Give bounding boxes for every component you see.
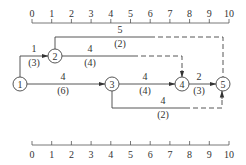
top-axis-tick-label: 2 bbox=[69, 8, 74, 19]
edge-4-5-float: (3) bbox=[193, 85, 205, 97]
edge-3-5-float: (2) bbox=[157, 109, 169, 121]
edge-3-5: 4 (2) bbox=[112, 91, 222, 121]
edge-1-2: 1 (3) bbox=[20, 43, 48, 77]
edge-3-4-duration: 4 bbox=[143, 71, 148, 82]
bottom-axis-tick-label: 10 bbox=[224, 149, 234, 160]
bottom-axis-tick-label: 9 bbox=[207, 149, 212, 160]
edge-3-4-float: (4) bbox=[139, 85, 151, 97]
node-4-label: 4 bbox=[180, 79, 185, 90]
node-1: 1 bbox=[13, 77, 27, 91]
top-axis-tick-label: 1 bbox=[49, 8, 54, 19]
top-axis-tick-label: 4 bbox=[108, 8, 113, 19]
edge-2-4-duration: 4 bbox=[88, 43, 93, 54]
bottom-axis-tick-label: 1 bbox=[49, 149, 54, 160]
network-diagram: 012345678910 012345678910 1 (3) 5 (2) 4 … bbox=[0, 0, 246, 165]
top-axis-tick-label: 9 bbox=[207, 8, 212, 19]
bottom-axis-tick-label: 2 bbox=[69, 149, 74, 160]
node-5: 5 bbox=[216, 77, 230, 91]
node-3: 3 bbox=[105, 77, 119, 91]
edge-4-5-duration: 2 bbox=[197, 71, 202, 82]
node-5-label: 5 bbox=[221, 79, 226, 90]
edge-3-4: 4 (4) bbox=[119, 71, 175, 97]
edge-1-3: 4 (6) bbox=[27, 71, 105, 97]
top-axis-tick-label: 6 bbox=[148, 8, 153, 19]
node-2-label: 2 bbox=[53, 51, 58, 62]
bottom-axis-tick-label: 3 bbox=[89, 149, 94, 160]
edge-3-5-duration: 4 bbox=[161, 95, 166, 106]
top-axis-tick-label: 5 bbox=[128, 8, 133, 19]
bottom-time-axis: 012345678910 bbox=[30, 141, 235, 160]
edge-1-2-duration: 1 bbox=[32, 43, 37, 54]
edge-2-5-float: (2) bbox=[114, 38, 126, 50]
bottom-axis-tick-label: 6 bbox=[148, 149, 153, 160]
top-axis-tick-label: 0 bbox=[30, 8, 35, 19]
edge-2-5: 5 (2) bbox=[55, 24, 223, 77]
top-axis-tick-label: 10 bbox=[224, 8, 234, 19]
edge-1-3-float: (6) bbox=[57, 85, 69, 97]
bottom-axis-tick-label: 8 bbox=[187, 149, 192, 160]
edge-4-5: 2 (3) bbox=[189, 71, 216, 97]
bottom-axis-tick-label: 7 bbox=[167, 149, 172, 160]
node-3-label: 3 bbox=[110, 79, 115, 90]
bottom-axis-tick-label: 4 bbox=[108, 149, 113, 160]
edge-2-4-float: (4) bbox=[84, 57, 96, 69]
top-time-axis: 012345678910 bbox=[30, 8, 235, 23]
edge-2-5-duration: 5 bbox=[118, 24, 123, 35]
top-axis-tick-label: 7 bbox=[167, 8, 172, 19]
top-axis-tick-label: 3 bbox=[89, 8, 94, 19]
node-1-label: 1 bbox=[18, 79, 23, 90]
top-axis-tick-label: 8 bbox=[187, 8, 192, 19]
edge-1-2-float: (3) bbox=[28, 57, 40, 69]
bottom-axis-tick-label: 0 bbox=[30, 149, 35, 160]
bottom-axis-tick-label: 5 bbox=[128, 149, 133, 160]
node-2: 2 bbox=[48, 49, 62, 63]
edge-1-3-duration: 4 bbox=[61, 71, 66, 82]
node-4: 4 bbox=[175, 77, 189, 91]
